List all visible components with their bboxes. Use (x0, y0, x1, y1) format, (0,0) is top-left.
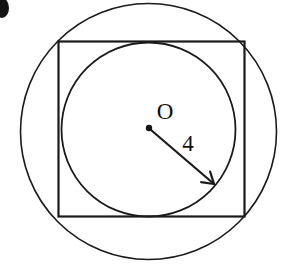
center-label: O (157, 99, 174, 124)
cropped-bullet-mark (0, 0, 9, 18)
center-point-dot (146, 125, 152, 131)
geometry-figure: O 4 (0, 0, 291, 265)
figure-canvas: O 4 (0, 0, 291, 265)
radius-length-label: 4 (182, 131, 194, 156)
